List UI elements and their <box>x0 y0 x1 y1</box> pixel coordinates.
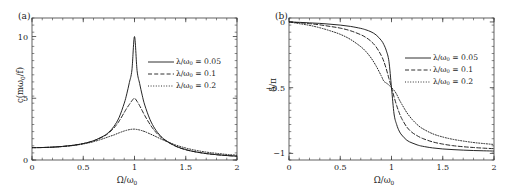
panel-a-yaxis-label: c(mω0/f) <box>15 35 25 135</box>
figure-container: (a) 00.511.520510 Ω/ω0 c(mω0/f) λ/ω0 = 0… <box>0 0 513 195</box>
panel-a-xaxis-label: Ω/ω0 <box>72 175 182 185</box>
legend-label: λ/ω0 = 0.2 <box>433 77 473 87</box>
panel-b: (b) 00.511.520−0.5−1 Ω/ω0 δ/π λ/ω0 = 0.0… <box>257 0 513 195</box>
legend-key-dashed <box>148 69 174 79</box>
legend-label: λ/ω0 = 0.2 <box>176 81 216 91</box>
svg-text:0.5: 0.5 <box>77 163 90 172</box>
legend-item: λ/ω0 = 0.1 <box>148 68 221 80</box>
legend-item: λ/ω0 = 0.2 <box>148 80 221 92</box>
legend-item: λ/ω0 = 0.05 <box>405 52 478 64</box>
panel-b-tag: (b) <box>275 11 288 21</box>
panel-a-legend: λ/ω0 = 0.05 λ/ω0 = 0.1 λ/ω0 = 0.2 <box>148 56 221 92</box>
svg-text:0: 0 <box>23 156 28 165</box>
legend-item: λ/ω0 = 0.2 <box>405 76 478 88</box>
legend-label: λ/ω0 = 0.05 <box>433 53 478 63</box>
panel-a: (a) 00.511.520510 Ω/ω0 c(mω0/f) λ/ω0 = 0… <box>0 0 256 195</box>
svg-text:2: 2 <box>491 163 496 172</box>
panel-b-legend: λ/ω0 = 0.05 λ/ω0 = 0.1 λ/ω0 = 0.2 <box>405 52 478 88</box>
svg-text:1: 1 <box>132 163 137 172</box>
legend-key-dashed <box>405 65 431 75</box>
svg-text:2: 2 <box>234 163 239 172</box>
legend-key-dotted <box>405 77 431 87</box>
panel-b-yaxis-label: δ/π <box>268 35 278 135</box>
legend-item: λ/ω0 = 0.05 <box>148 56 221 68</box>
legend-label: λ/ω0 = 0.1 <box>176 69 216 79</box>
svg-text:0: 0 <box>29 163 34 172</box>
legend-key-solid <box>405 53 431 63</box>
legend-item: λ/ω0 = 0.1 <box>405 64 478 76</box>
legend-key-solid <box>148 57 174 67</box>
svg-text:1: 1 <box>389 163 394 172</box>
legend-label: λ/ω0 = 0.05 <box>176 57 221 67</box>
legend-label: λ/ω0 = 0.1 <box>433 65 473 75</box>
svg-text:1.5: 1.5 <box>436 163 449 172</box>
panel-a-tag: (a) <box>18 11 30 21</box>
panel-b-plot: 00.511.520−0.5−1 <box>257 0 513 195</box>
panel-b-xaxis-label: Ω/ω0 <box>329 175 439 185</box>
svg-text:1.5: 1.5 <box>179 163 192 172</box>
svg-text:0: 0 <box>286 163 291 172</box>
legend-key-dotted <box>148 81 174 91</box>
svg-text:−1: −1 <box>273 149 285 158</box>
svg-text:0.5: 0.5 <box>334 163 347 172</box>
panel-a-plot: 00.511.520510 <box>0 0 256 195</box>
